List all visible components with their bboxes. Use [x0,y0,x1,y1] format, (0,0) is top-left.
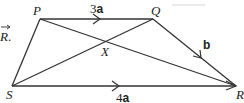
vertex-label-s: S [6,87,13,102]
vector-label-pq: 3a [90,1,104,16]
edge-qr [153,19,236,86]
trapezium-diagram: R. P Q S R X 3a b 4a [0,0,244,103]
partial-vector-letter: R. [0,29,11,44]
diagonal-sq [12,19,153,86]
vertex-label-p: P [32,3,41,18]
vector-label-sr: 4a [116,90,130,103]
partial-vector-text: R. [0,25,11,44]
vector-label-qr: b [203,38,210,52]
edge-ps [12,19,40,86]
intersection-label-x: X [100,44,110,59]
vertex-label-r: R [235,87,244,102]
vertex-label-q: Q [151,3,161,18]
diagonal-pr [40,19,236,86]
